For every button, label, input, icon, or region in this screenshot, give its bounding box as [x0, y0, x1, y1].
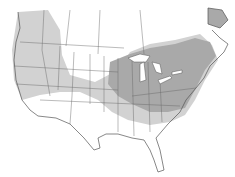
core-range-zone — [108, 8, 228, 112]
range-map — [0, 0, 235, 177]
